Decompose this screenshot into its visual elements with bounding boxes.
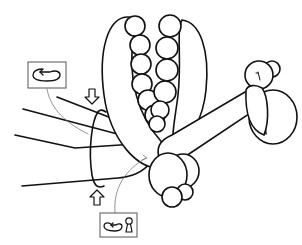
- callout-twist: [28, 62, 66, 88]
- arrow-up: [90, 190, 104, 205]
- twist-rotation-loop: [90, 110, 106, 187]
- connector-line-top: [47, 89, 88, 134]
- body-bubbles: [149, 153, 199, 207]
- arrow-down: [85, 89, 99, 104]
- diagram-svg: [0, 0, 302, 245]
- head-bubbles: [245, 61, 297, 144]
- balloon-instruction-diagram: balloon-twisting-instruction: [0, 0, 302, 245]
- connector-line-bottom: [115, 158, 146, 213]
- callout-twist-lock: [100, 213, 137, 237]
